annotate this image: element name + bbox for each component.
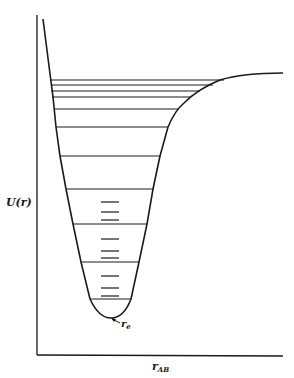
potential-curve: [43, 19, 283, 318]
x-axis: [37, 355, 283, 356]
x-axis-label: rAB: [152, 360, 169, 374]
sublevel-dashes: [101, 202, 119, 296]
arrow-icon: [111, 318, 116, 322]
vibrational-levels: [50, 80, 224, 299]
minimum-label: re: [121, 318, 131, 331]
y-axis-label: U(r): [6, 196, 32, 209]
potential-energy-diagram: re U(r) rAB: [0, 0, 294, 378]
